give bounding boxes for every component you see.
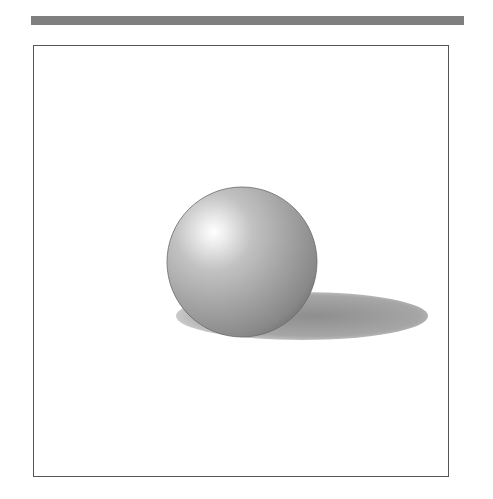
sphere-illustration (0, 0, 493, 499)
sphere (167, 187, 317, 337)
